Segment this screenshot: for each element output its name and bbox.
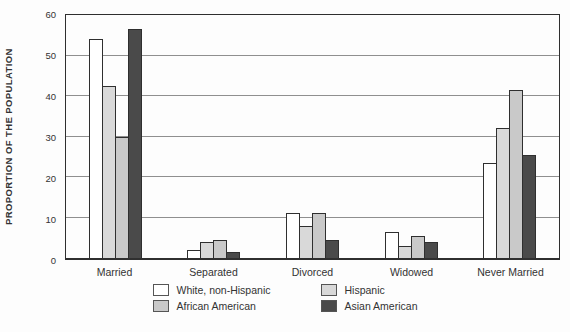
y-tick-label: 0 [51, 255, 56, 266]
legend-wrap: White, non-HispanicHispanicAfrican Ameri… [0, 284, 570, 312]
y-tick-label: 60 [45, 9, 56, 20]
bar [299, 226, 313, 258]
bar [398, 246, 412, 258]
legend-item: White, non-Hispanic [153, 284, 321, 296]
bar [424, 242, 438, 258]
bar [286, 213, 300, 258]
x-category-label: Married [65, 266, 164, 278]
y-tick-label: 30 [45, 132, 56, 143]
bar-group [165, 15, 264, 258]
x-category-label: Divorced [263, 266, 362, 278]
bar [385, 232, 399, 258]
bar [213, 240, 227, 258]
bar [187, 250, 201, 258]
bar-group [362, 15, 461, 258]
bar-group [66, 15, 165, 258]
legend-label: White, non-Hispanic [177, 284, 271, 296]
legend-label: African American [177, 300, 256, 312]
bar [325, 240, 339, 258]
y-axis-ticks: 0102030405060 [0, 14, 61, 260]
bar [522, 155, 536, 258]
legend-swatch [153, 300, 169, 312]
legend-item: Hispanic [321, 284, 418, 296]
x-category-label: Never Married [461, 266, 560, 278]
y-tick-label: 10 [45, 214, 56, 225]
bar [102, 86, 116, 258]
bar [483, 163, 497, 258]
y-tick-label: 50 [45, 50, 56, 61]
bar [89, 39, 103, 258]
bar [312, 213, 326, 258]
legend-swatch [321, 300, 337, 312]
bar [200, 242, 214, 258]
legend: White, non-HispanicHispanicAfrican Ameri… [153, 284, 418, 312]
bar [509, 90, 523, 258]
bar [226, 252, 240, 258]
bar [128, 29, 142, 258]
legend-label: Hispanic [345, 284, 385, 296]
legend-label: Asian American [345, 300, 418, 312]
plot-area [65, 14, 560, 260]
bar [411, 236, 425, 258]
bar [496, 128, 510, 258]
y-tick-label: 40 [45, 91, 56, 102]
legend-item: African American [153, 300, 321, 312]
bar-group [460, 15, 559, 258]
y-tick-label: 20 [45, 173, 56, 184]
chart-figure: PROPORTION OF THE POPULATION 01020304050… [0, 0, 570, 332]
x-axis-labels: MarriedSeparatedDivorcedWidowedNever Mar… [65, 266, 560, 278]
x-category-label: Widowed [362, 266, 461, 278]
x-category-label: Separated [164, 266, 263, 278]
legend-swatch [321, 284, 337, 296]
legend-swatch [153, 284, 169, 296]
bar [115, 137, 129, 259]
legend-item: Asian American [321, 300, 418, 312]
bar-group [263, 15, 362, 258]
